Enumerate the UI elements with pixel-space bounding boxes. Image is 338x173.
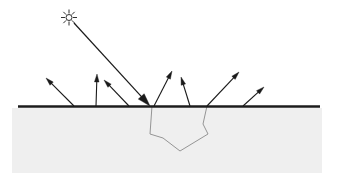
sun-ray-6 — [64, 21, 66, 23]
scattered-ray-2-head — [94, 74, 99, 82]
scattered-ray-4-shaft — [154, 77, 169, 106]
diagram-canvas — [0, 0, 338, 173]
scattered-ray-6-shaft — [207, 77, 235, 106]
sun-core — [66, 15, 72, 21]
scattered-ray-3-shaft — [109, 85, 129, 106]
scattered-rays-group — [46, 71, 264, 106]
scattered-ray-7-shaft — [243, 91, 259, 106]
incident-ray — [74, 23, 150, 106]
scattered-ray-4-head — [166, 71, 172, 79]
scattered-ray-2-shaft — [96, 81, 97, 106]
sun-ray-8 — [64, 12, 66, 14]
sun-ray-2 — [72, 12, 74, 14]
scattering-diagram — [0, 0, 338, 173]
scattered-ray-5-shaft — [183, 83, 190, 106]
scattered-ray-5-head — [181, 77, 186, 85]
sun-ray-4 — [72, 21, 74, 23]
scattered-ray-1-shaft — [51, 83, 74, 106]
